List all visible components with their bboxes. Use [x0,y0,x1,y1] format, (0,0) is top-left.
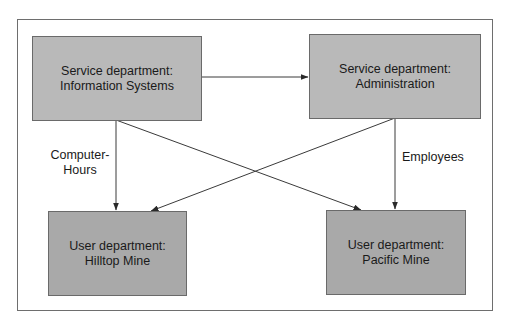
node-pacific-mine: User department: Pacific Mine [326,210,466,295]
node-information-systems: Service department: Information Systems [32,36,202,121]
node-label-line1: Service department: [60,64,174,79]
node-label-line1: Service department: [339,62,451,77]
node-label-line1: User department: [69,239,166,254]
edge-label-employees: Employees [402,150,464,165]
edge-label-text: Employees [402,150,464,164]
node-label-line2: Pacific Mine [348,253,445,268]
edge-label-line1: Computer- [50,148,110,163]
node-label-line2: Information Systems [60,79,174,94]
node-label-line2: Administration [339,77,451,92]
edge-is-to-pacific [116,120,361,210]
node-label-line1: User department: [348,238,445,253]
edge-admin-to-hilltop [151,118,395,211]
node-administration: Service department: Administration [309,34,481,119]
node-hilltop-mine: User department: Hilltop Mine [48,211,187,296]
node-label-line2: Hilltop Mine [69,254,166,269]
edge-label-computer-hours: Computer- Hours [50,148,110,178]
edge-label-line2: Hours [50,163,110,178]
